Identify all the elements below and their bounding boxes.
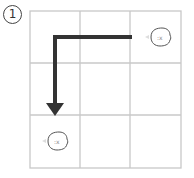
chick-icon: :x [145, 28, 171, 46]
arrowhead-icon [46, 103, 64, 116]
svg-text::x: :x [54, 138, 60, 145]
chick-icon: :x [42, 132, 68, 150]
grid-diagram: :x :x [0, 0, 194, 178]
path-arrow [55, 37, 132, 104]
svg-text::x: :x [157, 34, 163, 41]
